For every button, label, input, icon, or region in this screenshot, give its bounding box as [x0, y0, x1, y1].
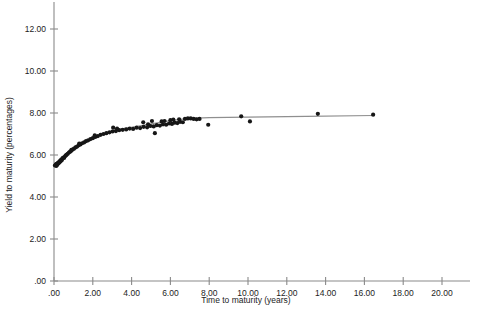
- chart-figure: .002.004.006.008.0010.0012.00 .002.004.0…: [0, 0, 492, 313]
- x-tick-label: .00: [48, 288, 60, 298]
- fitted-curve-path: [55, 116, 373, 166]
- y-tick-label: 8.00: [29, 108, 46, 118]
- data-point: [197, 117, 201, 121]
- y-tick-label: 10.00: [25, 66, 47, 76]
- data-point: [77, 142, 81, 146]
- data-point: [150, 119, 154, 123]
- data-point: [93, 133, 97, 137]
- x-tick-label: 6.00: [162, 288, 179, 298]
- data-point: [162, 119, 166, 123]
- data-point: [171, 118, 175, 122]
- y-tick-label: 6.00: [29, 150, 46, 160]
- data-point: [206, 123, 210, 127]
- plot-axes: [54, 2, 470, 281]
- data-point: [371, 113, 375, 117]
- data-point: [111, 126, 115, 130]
- x-tick-label: 20.00: [431, 288, 453, 298]
- x-tick-label: 2.00: [85, 288, 102, 298]
- fitted-curve: [55, 116, 373, 166]
- data-point: [153, 131, 157, 135]
- data-point: [146, 122, 150, 126]
- data-points: [53, 112, 375, 168]
- data-point: [316, 112, 320, 116]
- data-point: [69, 148, 73, 152]
- scatter-plot: .002.004.006.008.0010.0012.00 .002.004.0…: [0, 0, 492, 313]
- x-tick-label: 18.00: [393, 288, 415, 298]
- data-point: [239, 114, 243, 118]
- data-point: [248, 119, 252, 123]
- y-tick-label: .00: [34, 276, 46, 286]
- y-axis-ticks: .002.004.006.008.0010.0012.00: [25, 24, 58, 286]
- y-tick-label: 4.00: [29, 192, 46, 202]
- x-axis-title: Time to maturity (years): [201, 295, 291, 305]
- x-tick-label: 14.00: [315, 288, 337, 298]
- data-point: [141, 120, 145, 124]
- x-tick-label: 4.00: [123, 288, 140, 298]
- x-tick-label: 16.00: [354, 288, 376, 298]
- y-tick-label: 12.00: [25, 24, 47, 34]
- data-point: [115, 126, 119, 130]
- y-tick-label: 2.00: [29, 234, 46, 244]
- data-point: [177, 117, 181, 121]
- y-axis-title: Yield to maturity (percentages): [4, 97, 14, 213]
- data-point: [124, 127, 128, 131]
